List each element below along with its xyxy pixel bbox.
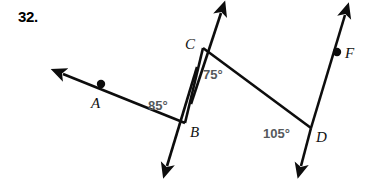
point-dot-A — [97, 80, 105, 88]
ray-F-upward — [311, 15, 345, 128]
segment-CD — [203, 48, 311, 128]
point-label-F: F — [345, 45, 354, 62]
point-label-D: D — [316, 129, 327, 146]
segment-C-D — [203, 48, 311, 128]
segment-BC — [185, 48, 203, 123]
angle-label-bcd: 75° — [203, 67, 223, 82]
point-label-B: B — [190, 124, 199, 141]
angle-label-abc: 85° — [148, 98, 168, 113]
problem-number: 32. — [18, 8, 38, 25]
point-dot-F — [333, 48, 341, 56]
angle-label-cdf: 105° — [263, 126, 290, 141]
ray-D-downward — [301, 128, 311, 166]
geometry-diagram — [0, 0, 372, 183]
point-label-A: A — [91, 95, 100, 112]
point-label-C: C — [185, 36, 195, 53]
